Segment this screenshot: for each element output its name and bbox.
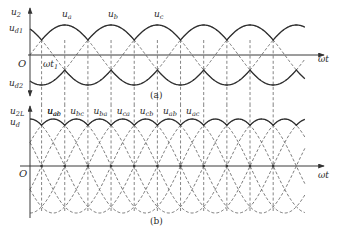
label-ud1: ud1 — [9, 23, 23, 35]
y-axis-label-u2: u2 — [11, 7, 21, 19]
caption-b: (b) — [150, 216, 163, 226]
origin-label: O — [18, 58, 26, 69]
panel-a: u2 ud1 ud2 O ωt1 ωt ua ub uc (a) — [9, 7, 329, 104]
output-envelope-ud — [30, 119, 305, 125]
panel-b: u2L ud O ωt uabuacubcubaucaucbuabuac (b) — [10, 104, 329, 226]
envelope-ud — [30, 119, 305, 125]
label-uc: uc — [154, 9, 164, 21]
label-ua: ua — [62, 9, 72, 21]
line-voltage-label: uac — [47, 106, 61, 118]
envelope-ud1 — [30, 25, 305, 40]
line-voltage-label: ucb — [140, 106, 154, 118]
caption-a: (a) — [150, 90, 162, 100]
x-axis-label-omega-t: ωt — [318, 54, 329, 64]
y-axis-label-ud: ud — [10, 117, 20, 129]
omega-t1-label: ωt1 — [43, 59, 58, 71]
commutation-dashed-lines — [42, 104, 274, 213]
origin-label: O — [19, 168, 27, 179]
label-ub: ub — [108, 9, 118, 21]
envelope-ud2 — [30, 70, 305, 85]
x-axis-label-omega-t: ωt — [318, 170, 329, 180]
line-voltage-label: uab — [163, 106, 177, 118]
label-ud2: ud2 — [9, 78, 23, 90]
line-voltage-label: uca — [117, 106, 130, 118]
line-voltage-label: uac — [186, 106, 200, 118]
line-voltage-label: uba — [93, 106, 107, 118]
line-voltage-label: ubc — [70, 106, 84, 118]
waveform-figure: u2 ud1 ud2 O ωt1 ωt ua ub uc (a) u2L ud … — [0, 0, 337, 241]
line-voltage-labels: uabuacubcubaucaucbuabuac — [47, 106, 200, 118]
